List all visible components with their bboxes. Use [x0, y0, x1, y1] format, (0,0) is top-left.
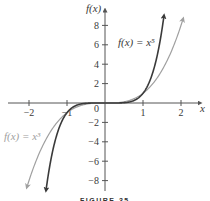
figure-caption: FIGURE 35: [80, 197, 130, 201]
x3-curve-right: [105, 19, 183, 103]
x-tick-label: −2: [24, 107, 35, 118]
y-tick-label: 6: [94, 39, 99, 50]
origin-label: 0: [94, 103, 99, 114]
x5-curve-label: f(x) = x⁵: [118, 36, 155, 49]
x-tick-label: 1: [141, 107, 146, 118]
x5-curve-right: [105, 16, 164, 103]
function-graph: −2−1128642−2−4−6−8 f(x) x 0 f(x) = x⁵ f(…: [0, 0, 210, 201]
axes: [8, 10, 200, 191]
y-tick-label: −2: [88, 117, 99, 128]
y-tick-label: −4: [88, 136, 99, 147]
y-tick-label: 8: [94, 20, 99, 31]
x3-curve-label: f(x) = x³: [4, 130, 41, 143]
y-tick-label: −8: [88, 175, 99, 186]
x-axis-label: x: [199, 102, 205, 114]
y-axis-label: f(x): [86, 2, 102, 15]
y-tick-label: 4: [94, 59, 99, 70]
y-tick-label: 2: [94, 78, 99, 89]
y-tick-label: −6: [88, 156, 99, 167]
x-tick-label: 2: [179, 107, 184, 118]
